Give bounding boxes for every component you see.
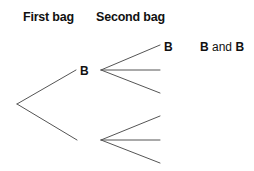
branch-upper-bottom [101, 70, 160, 93]
branch-lower-top [101, 116, 160, 140]
branch-root-upper [17, 70, 76, 104]
outcome-part1: B [200, 40, 209, 54]
outcome-part2: B [235, 40, 244, 54]
node-first-bag-b: B [80, 65, 89, 77]
branch-root-lower [17, 104, 77, 140]
outcome-conj: and [209, 40, 236, 54]
branch-lower-bottom [101, 140, 160, 163]
tree-branches [0, 0, 254, 171]
outcome-b-and-b: B and B [200, 41, 244, 53]
node-second-bag-b: B [164, 41, 173, 53]
branch-upper-top [101, 45, 160, 70]
